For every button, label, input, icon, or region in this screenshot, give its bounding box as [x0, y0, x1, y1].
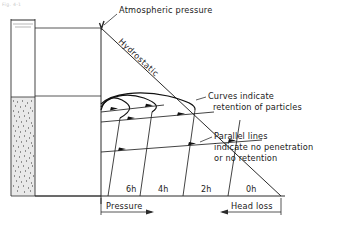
curves-annotation-line2: retention of particles [213, 102, 302, 112]
parallel-annotation-line3: or no retention [214, 153, 277, 163]
atmospheric-leader-arrowhead [100, 21, 105, 29]
atmospheric-leader-line [104, 14, 117, 25]
pressure-label: Pressure [106, 201, 143, 211]
time-label-0h: 0h [246, 185, 256, 194]
retention-curve-4h [101, 95, 156, 112]
parallel-line-4h [140, 112, 152, 196]
pressure-arrowhead [146, 210, 154, 215]
curves-annotation-leader [196, 97, 206, 100]
head-loss-label: Head loss [231, 201, 273, 211]
time-label-4h: 4h [158, 185, 168, 194]
retention-curve-2h [101, 93, 195, 110]
filter-column [11, 19, 35, 196]
parallel-line-2h [183, 110, 195, 196]
headloss-arrowhead [220, 210, 228, 215]
figure-caption-faint: Fig. 4-1 [2, 2, 21, 7]
filtration-head-loss-diagram: Fig. 4-1 [0, 0, 351, 225]
dimension-bar: Pressure Head loss [101, 198, 281, 215]
time-label-6h: 6h [126, 185, 136, 194]
hydrostatic-label: Hydrostatic [117, 36, 161, 78]
parallel-annotation-line2: indicate no penetration [214, 142, 313, 152]
cross-line-upper [101, 105, 164, 112]
parallel-annotation-line1: Parallel lines [214, 131, 268, 141]
curves-annotation-line1: Curves indicate [208, 91, 274, 101]
time-label-2h: 2h [201, 185, 211, 194]
atmospheric-pressure-label: Atmospheric pressure [119, 5, 212, 15]
parallel-annotation-leader [200, 137, 212, 142]
parallel-line-6h [108, 118, 120, 196]
